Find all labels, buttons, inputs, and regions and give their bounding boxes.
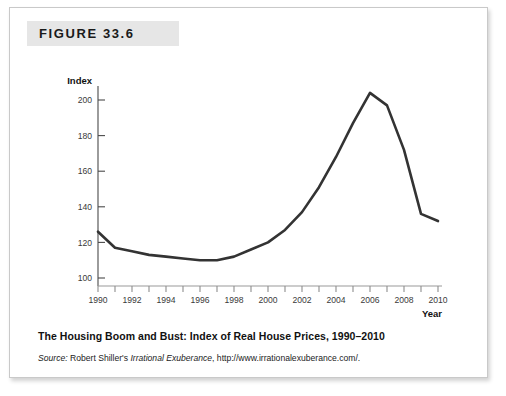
y-axis-tick-label: 180 [78,131,93,141]
figure-source-line: Source: Robert Shiller's Irrational Exub… [38,353,360,363]
figure-caption-title: The Housing Boom and Bust: Index of Real… [38,330,385,342]
y-axis-title: Index [67,75,93,86]
x-axis-tick-label: 2000 [258,295,277,305]
x-axis-title: Year [422,308,442,318]
x-axis-tick-label: 1992 [122,295,141,305]
y-axis-tick-label: 100 [78,273,93,283]
source-author: Robert Shiller's [68,353,131,363]
y-axis-tick-label: 140 [78,202,93,212]
x-axis-tick-label: 2010 [428,295,447,305]
x-axis-tick-label: 2008 [394,295,413,305]
chart-plot-area: 100120140160180200Index19901992199419961… [10,8,489,318]
x-axis-tick-label: 1994 [156,295,175,305]
x-axis-tick-label: 2006 [360,295,379,305]
y-axis-tick-label: 120 [78,238,93,248]
figure-card: FIGURE 33.6 100120140160180200Index19901… [9,7,488,378]
source-prefix: Source: [38,353,68,363]
line-chart-svg: 100120140160180200Index19901992199419961… [10,8,489,318]
x-axis-tick-label: 2004 [326,295,345,305]
source-url: , http://www.irrationalexuberance.com/. [212,353,360,363]
data-series-line [98,93,438,260]
x-axis-tick-label: 1998 [224,295,243,305]
x-axis-tick-label: 1996 [190,295,209,305]
x-axis-tick-label: 1990 [88,295,107,305]
source-book-title: Irrational Exuberance [130,353,212,363]
y-axis-tick-label: 160 [78,166,93,176]
x-axis-tick-label: 2002 [292,295,311,305]
y-axis-tick-label: 200 [78,95,93,105]
